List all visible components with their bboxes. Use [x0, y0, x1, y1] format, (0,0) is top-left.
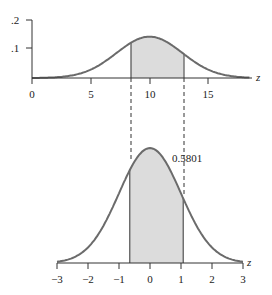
bottom-shaded-area — [130, 148, 183, 263]
bottom-axis-label-z: z — [246, 256, 252, 268]
top-x-tick-label: 15 — [203, 88, 215, 100]
bottom-chart: 0.5801 −3 −2 −1 0 1 2 3 z — [51, 148, 252, 285]
top-x-tick-label: 0 — [29, 88, 35, 100]
top-chart: .2 .1 0 5 10 15 z — [11, 14, 261, 100]
top-shaded-area — [131, 37, 184, 78]
bottom-x-tick-label: −3 — [51, 273, 63, 285]
top-x-tick-label: 10 — [145, 88, 157, 100]
bottom-x-tick-label: 3 — [240, 273, 246, 285]
normal-distribution-figure: .2 .1 0 5 10 15 z 0.5801 −3 −2 −1 0 — [0, 0, 272, 295]
bottom-x-tick-label: −1 — [113, 273, 125, 285]
bottom-x-tick-label: 0 — [147, 273, 153, 285]
top-axis-label-z: z — [255, 71, 261, 83]
area-probability-label: 0.5801 — [172, 152, 202, 164]
bottom-x-tick-label: −2 — [82, 273, 94, 285]
top-y-tick-label: .2 — [11, 14, 19, 26]
bottom-x-tick-label: 1 — [178, 273, 184, 285]
top-y-tick-label: .1 — [11, 42, 19, 54]
top-x-tick-label: 5 — [88, 88, 94, 100]
bottom-x-tick-label: 2 — [209, 273, 215, 285]
